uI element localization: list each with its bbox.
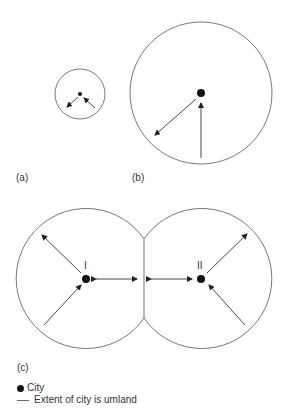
city-label-II: II bbox=[197, 260, 203, 271]
arrow-in-I bbox=[44, 285, 81, 325]
city-dot-I bbox=[82, 275, 90, 283]
arrow-out-b bbox=[155, 99, 196, 135]
city-dot-II bbox=[197, 275, 205, 283]
arrow-in-II bbox=[209, 285, 245, 325]
city-label-I: I bbox=[84, 260, 87, 271]
arrow-in-a bbox=[84, 98, 95, 108]
arrow-out-I bbox=[42, 235, 81, 273]
arrow-out-II bbox=[207, 234, 247, 273]
city-dot-icon bbox=[17, 385, 24, 392]
panel-c bbox=[16, 209, 272, 349]
umland-boundary-right bbox=[144, 209, 272, 349]
panel-b-label: (b) bbox=[132, 172, 144, 183]
legend-item-city: City bbox=[17, 382, 137, 394]
panel-a-label: (a) bbox=[16, 172, 28, 183]
panel-c-label: (c) bbox=[17, 362, 29, 373]
line-icon bbox=[17, 400, 29, 401]
legend-item-extent: Extent of city is umland bbox=[17, 394, 137, 406]
city-dot-a bbox=[78, 92, 82, 96]
umland-diagram: marker path{fill:#222} bbox=[0, 0, 288, 418]
legend: City Extent of city is umland bbox=[17, 382, 137, 406]
umland-boundary-left bbox=[16, 209, 144, 349]
panel-b bbox=[130, 22, 272, 164]
city-dot-b bbox=[197, 89, 205, 97]
arrow-out-a bbox=[67, 97, 78, 107]
panel-a bbox=[55, 69, 105, 119]
